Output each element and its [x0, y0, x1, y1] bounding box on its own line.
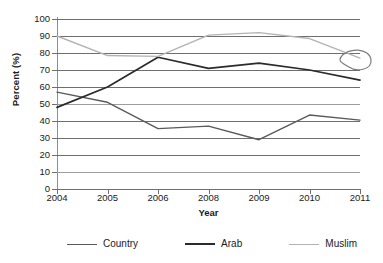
y-tick-label: 90 — [20, 31, 50, 41]
x-tick-label: 2008 — [187, 193, 231, 203]
series-line-country — [57, 92, 360, 140]
x-tick-label: 2006 — [136, 193, 180, 203]
y-tick-label: 40 — [20, 116, 50, 126]
x-tick-label: 2005 — [86, 193, 130, 203]
legend-swatch-country-icon — [67, 244, 97, 245]
y-tick-label: 50 — [20, 99, 50, 109]
legend-item-muslim[interactable]: Muslim — [289, 239, 357, 249]
x-tick-mark — [310, 189, 311, 194]
legend-label: Arab — [221, 239, 242, 249]
y-tick-label: 10 — [20, 167, 50, 177]
x-tick-label: 2011 — [338, 193, 382, 203]
x-tick-label: 2010 — [288, 193, 332, 203]
x-tick-mark — [360, 189, 361, 194]
x-tick-mark — [158, 189, 159, 194]
y-tick-label: 20 — [20, 150, 50, 160]
series-lines — [57, 19, 360, 189]
y-tick-label: 30 — [20, 133, 50, 143]
chart-legend: CountryArabMuslim — [57, 236, 367, 252]
series-line-muslim — [57, 33, 360, 59]
x-tick-mark — [209, 189, 210, 194]
legend-item-country[interactable]: Country — [67, 239, 138, 249]
line-chart: Percent (%) 1009080706050403020100 20042… — [0, 0, 383, 263]
y-tick-label: 100 — [20, 14, 50, 24]
x-tick-label: 2004 — [35, 193, 79, 203]
legend-label: Muslim — [325, 239, 357, 249]
legend-swatch-arab-icon — [185, 243, 215, 245]
legend-swatch-muslim-icon — [289, 244, 319, 245]
x-tick-mark — [108, 189, 109, 194]
x-axis-title: Year — [57, 207, 360, 218]
legend-item-arab[interactable]: Arab — [185, 239, 242, 249]
y-axis-title: Percent (%) — [10, 32, 21, 128]
legend-label: Country — [103, 239, 138, 249]
plot-area — [57, 19, 360, 189]
y-tick-label: 70 — [20, 65, 50, 75]
hand-drawn-circle-annotation — [340, 50, 371, 70]
x-tick-label: 2009 — [237, 193, 281, 203]
series-line-arab — [57, 57, 360, 107]
x-tick-mark — [57, 189, 58, 194]
y-tick-label: 60 — [20, 82, 50, 92]
y-tick-label: 80 — [20, 48, 50, 58]
x-tick-mark — [259, 189, 260, 194]
